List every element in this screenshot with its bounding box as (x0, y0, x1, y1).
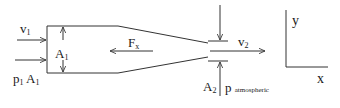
y-axis-label: y (292, 14, 299, 28)
fx-label: Fx (128, 36, 139, 51)
a2-label: A2 (203, 80, 216, 95)
v1-label: v1 (20, 22, 31, 37)
nozzle-diagram: v1 A1 p1 A1 Fx v2 A2 p atmospheric y x (0, 0, 340, 108)
p-atmospheric-label: p atmospheric (225, 81, 269, 94)
x-axis-label: x (317, 72, 324, 86)
nozzle-bottom-wall (47, 57, 208, 73)
a1-label: A1 (55, 47, 68, 62)
diagram-graphics (0, 0, 340, 108)
v2-label: v2 (238, 35, 249, 50)
p1a1-label: p1 A1 (13, 72, 39, 87)
